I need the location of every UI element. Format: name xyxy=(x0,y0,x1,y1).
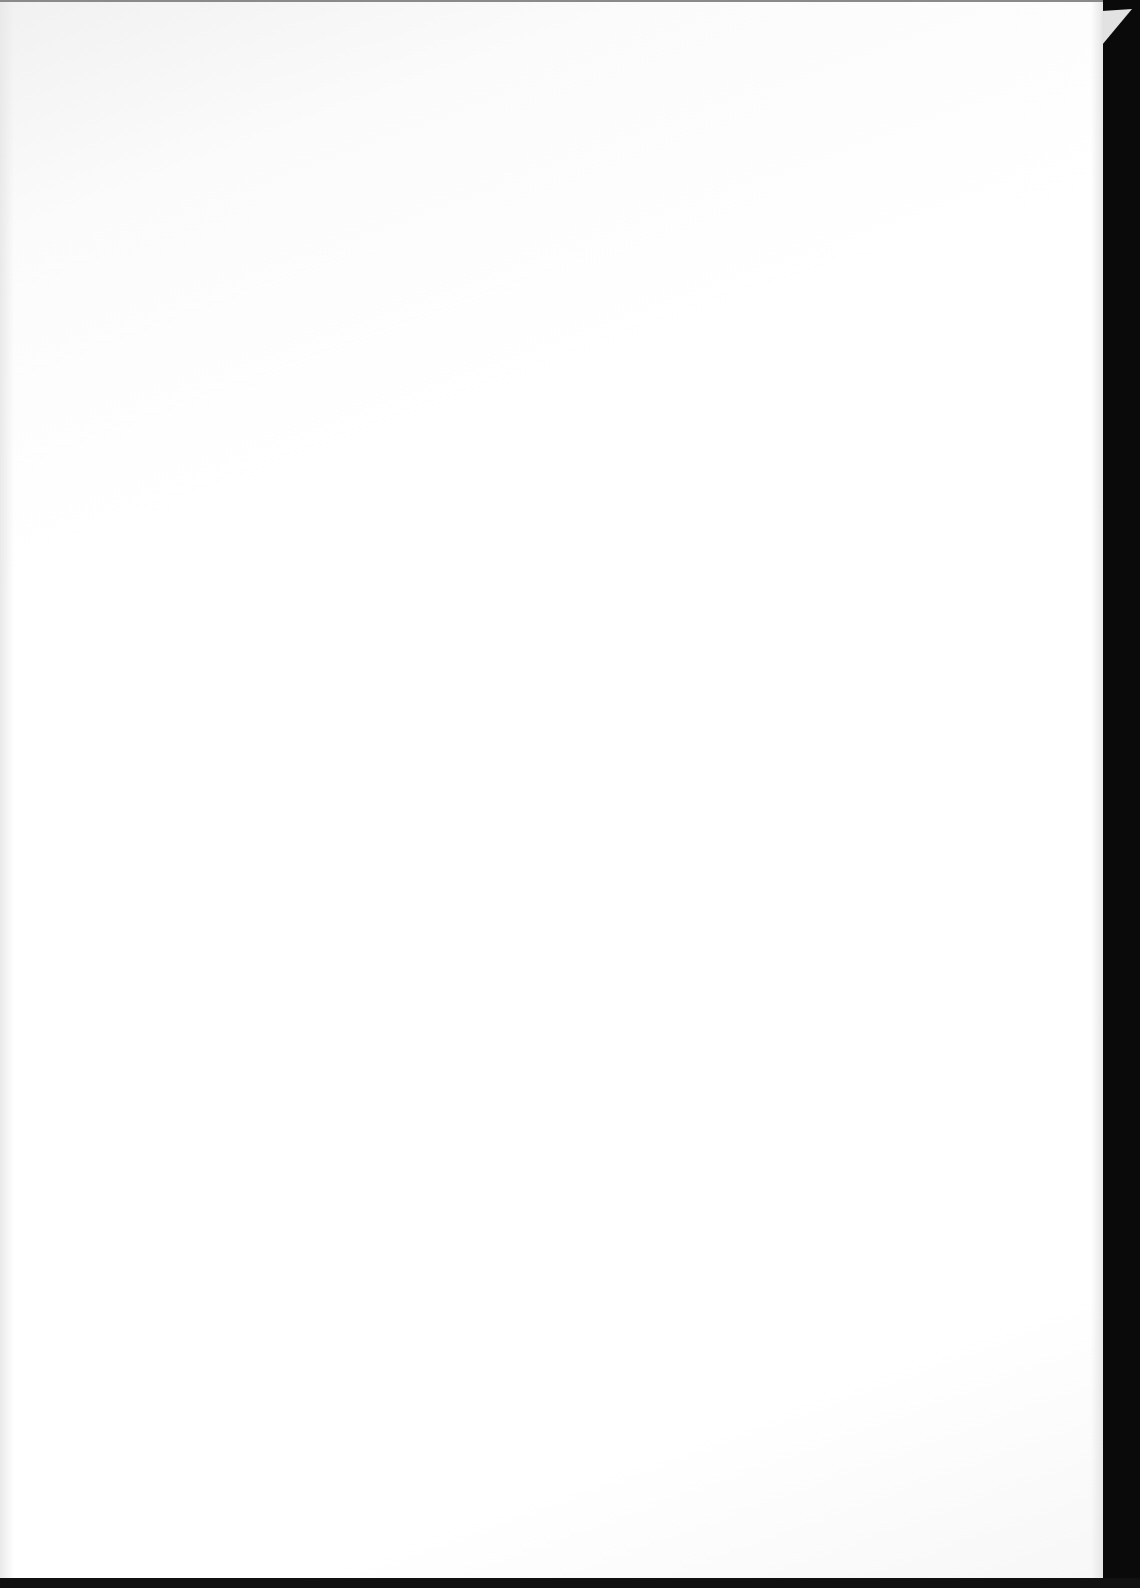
folded-corner xyxy=(1102,0,1132,45)
scanner-bed-edge xyxy=(0,1578,1140,1588)
blank-scanned-page xyxy=(0,0,1103,1580)
